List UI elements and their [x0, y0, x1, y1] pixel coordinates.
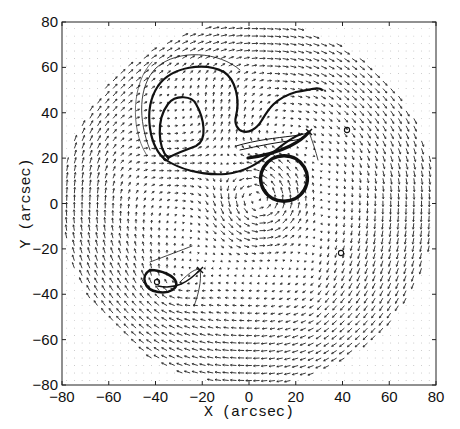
x-tick-label: −20 [190, 388, 215, 405]
y-tick-label: 0 [50, 195, 58, 212]
lower-left-loop [144, 270, 176, 292]
central-vortex-ring [261, 156, 308, 201]
y-tick-label: −60 [33, 331, 58, 348]
x-axis-label: X (arcsec) [204, 404, 294, 421]
x-tick-label: −40 [143, 388, 168, 405]
y-tick-label: −20 [33, 240, 58, 257]
x-tick-label: 40 [334, 388, 351, 405]
x-tick-label: 0 [245, 388, 253, 405]
y-tick-label: −40 [33, 285, 58, 302]
x-tick-label: 60 [381, 388, 398, 405]
upper-streamline-tail [248, 132, 309, 158]
x-tick-label: 20 [287, 388, 304, 405]
lower-left-thin [150, 246, 192, 262]
plot-frame [62, 22, 436, 385]
y-tick-label: 20 [41, 149, 58, 166]
x-tick-label: 80 [428, 388, 445, 405]
y-axis-label: Y (arcsec) [18, 158, 35, 248]
x-tick-label: −60 [96, 388, 121, 405]
vector-field [65, 27, 431, 383]
y-tick-label: 80 [41, 13, 58, 30]
y-tick-label: −80 [33, 376, 58, 393]
circle-marker [338, 250, 343, 255]
faint-contour [142, 55, 240, 150]
quiver-chart: −80−60−40−20020406080 806040200−20−40−60… [0, 0, 460, 429]
upper-left-inner-loop [160, 97, 204, 158]
y-tick-label: 40 [41, 104, 58, 121]
upper-streamline-thin [309, 132, 318, 160]
y-tick-label: 60 [41, 58, 58, 75]
